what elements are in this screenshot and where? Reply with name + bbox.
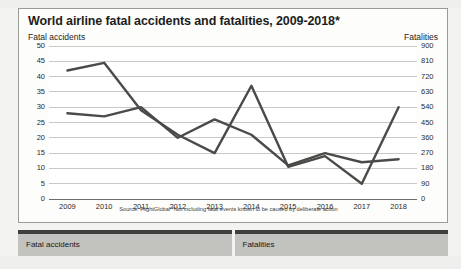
left-axis-tick: 30 — [37, 103, 45, 111]
legend-item-fatal-accidents[interactable]: Fatal accidents — [18, 230, 232, 256]
source-note: Source: FlightGlobal *Not including fata… — [19, 206, 438, 212]
series-line-fatalities — [67, 63, 398, 184]
right-axis-tick: 540 — [421, 103, 434, 111]
right-axis-tick: 90 — [421, 180, 429, 188]
right-axis-tick: 450 — [421, 119, 434, 127]
left-axis-tick: 20 — [37, 134, 45, 142]
left-axis-tick: 15 — [37, 149, 45, 157]
right-axis-tick: 180 — [421, 164, 434, 172]
left-axis-tick: 5 — [41, 180, 45, 188]
chart-card: World airline fatal accidents and fatali… — [18, 8, 448, 223]
right-axis-tick: 360 — [421, 134, 434, 142]
right-axis-tick: 270 — [421, 149, 434, 157]
chart-screenshot: World airline fatal accidents and fatali… — [0, 0, 461, 269]
chart-title: World airline fatal accidents and fatali… — [28, 14, 340, 28]
right-axis-tick: 0 — [421, 195, 425, 203]
legend-item-fatalities[interactable]: Fatalities — [235, 230, 449, 256]
left-axis-tick: 0 — [41, 195, 45, 203]
legend-label-fatal-accidents: Fatal accidents — [26, 240, 80, 249]
left-axis-tick: 45 — [37, 57, 45, 65]
right-axis-tick: 810 — [421, 57, 434, 65]
legend: Fatal accidents Fatalities — [18, 230, 448, 256]
left-axis-tick: 10 — [37, 164, 45, 172]
left-axis-tick: 35 — [37, 88, 45, 96]
legend-label-fatalities: Fatalities — [243, 240, 275, 249]
left-axis-tick: 40 — [37, 73, 45, 81]
right-axis-tick: 900 — [421, 42, 434, 50]
page-background-bottom — [0, 256, 461, 269]
page-background-top — [0, 0, 461, 8]
left-axis-tick: 25 — [37, 119, 45, 127]
left-axis-tick: 50 — [37, 42, 45, 50]
right-axis-tick: 630 — [421, 88, 434, 96]
series-line-fatal-accidents — [67, 107, 398, 165]
series-lines — [49, 46, 417, 199]
right-axis-tick: 720 — [421, 73, 434, 81]
plot-area: 05101520253035404550 0901802703604505406… — [49, 46, 417, 199]
